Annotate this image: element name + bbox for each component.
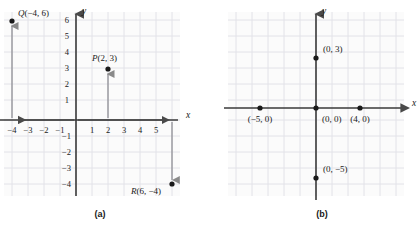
point-label-4-0: (4, 0) (350, 114, 370, 124)
point-label-origin: (0, 0) (322, 114, 342, 124)
panel-a-graph: x y −4 −3 −2 −1 1 2 3 4 5 6 5 4 3 2 1 (0, 0, 200, 206)
svg-text:1: 1 (65, 95, 69, 105)
panel-a-caption: (a) (0, 209, 200, 219)
point-q[interactable] (9, 18, 14, 23)
point-label-q: Q(−4, 6) (18, 8, 49, 18)
point-label-neg5-0: (−5, 0) (248, 114, 273, 124)
svg-text:−4: −4 (62, 179, 72, 189)
x-axis-label: x (185, 110, 191, 120)
point-label-r: R(6, −4) (130, 186, 161, 196)
panel-b: x y (−5, 0) (0, 0) (4, 0) (0, 3) (0, −5)… (224, 0, 420, 230)
point-r[interactable] (169, 181, 174, 186)
svg-text:5: 5 (65, 31, 69, 41)
point-0-3[interactable] (313, 55, 318, 60)
svg-text:3: 3 (65, 63, 69, 73)
svg-text:−3: −3 (23, 125, 32, 135)
y-axis-label: y (321, 6, 327, 16)
point-label-0-3: (0, 3) (323, 44, 343, 54)
panel-a: x y −4 −3 −2 −1 1 2 3 4 5 6 5 4 3 2 1 (0, 0, 200, 230)
panel-b-caption: (b) (224, 209, 420, 219)
y-axis-label: y (81, 6, 87, 16)
point-label-p: P(2, 3) (91, 53, 117, 63)
point-origin[interactable] (313, 105, 318, 110)
svg-text:6: 6 (65, 15, 69, 25)
svg-text:2: 2 (106, 125, 110, 135)
coordinate-plane-figure: x y −4 −3 −2 −1 1 2 3 4 5 6 5 4 3 2 1 (0, 0, 420, 230)
point-0-neg5[interactable] (313, 175, 318, 180)
grid-panel-a (4, 12, 180, 196)
point-p[interactable] (105, 66, 110, 71)
svg-text:2: 2 (65, 79, 69, 89)
point-neg5-0[interactable] (257, 105, 262, 110)
svg-text:−3: −3 (62, 163, 71, 173)
svg-text:−2: −2 (62, 147, 71, 157)
svg-text:−4: −4 (7, 125, 17, 135)
point-label-0-neg5: (0, −5) (323, 164, 348, 174)
svg-text:−2: −2 (39, 125, 48, 135)
svg-text:1: 1 (90, 125, 94, 135)
svg-text:−1: −1 (62, 131, 71, 141)
svg-text:3: 3 (122, 125, 126, 135)
x-axis-label: x (411, 98, 417, 108)
panel-b-graph: x y (−5, 0) (0, 0) (4, 0) (0, 3) (0, −5) (224, 0, 420, 206)
point-4-0[interactable] (357, 105, 362, 110)
svg-text:5: 5 (154, 125, 158, 135)
